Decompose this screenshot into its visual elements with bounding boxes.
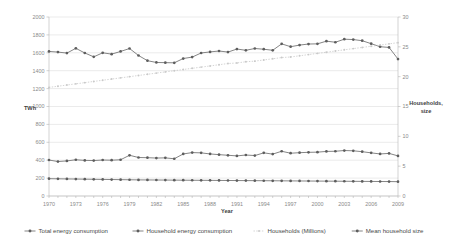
series-data-point [173, 179, 176, 182]
series-data-point [209, 153, 212, 156]
series-data-point [245, 154, 248, 157]
series-data-point [164, 71, 166, 73]
x-axis-tick-label: 1991 [231, 201, 243, 207]
series-data-point [236, 179, 239, 182]
series-data-point [75, 178, 78, 181]
series-data-point [227, 63, 229, 65]
series-data-point [280, 179, 283, 182]
series-data-point [325, 51, 327, 53]
series-data-point [379, 180, 382, 183]
series-data-point [397, 42, 399, 44]
series-data-point [325, 40, 328, 43]
series-data-point [75, 158, 78, 161]
series-data-point [317, 52, 319, 54]
y-axis-right-tick-label: 10 [403, 133, 409, 139]
y-axis-left-tick-label: 600 [36, 139, 45, 145]
series-data-point [120, 77, 122, 79]
series-data-point [84, 82, 86, 84]
series-data-point [110, 53, 113, 56]
series-data-point [298, 44, 301, 47]
series-data-point [164, 157, 167, 160]
series-data-point [129, 76, 131, 78]
x-axis-tick-label: 1976 [97, 201, 109, 207]
series-data-point [262, 179, 265, 182]
series-data-point [316, 43, 319, 46]
series-data-point [334, 41, 337, 44]
series-data-point [361, 46, 363, 48]
series-data-point [263, 59, 265, 61]
series-data-point [289, 180, 292, 183]
series-data-point [155, 72, 157, 74]
y-axis-right-tick-label: 20 [403, 74, 409, 80]
series-data-point [370, 152, 373, 155]
series-data-point [218, 179, 221, 182]
legend-item-label[interactable]: Household energy consumption [147, 227, 233, 234]
series-data-point [289, 45, 292, 48]
series-data-point [334, 50, 336, 52]
series-data-point [352, 149, 355, 152]
series-data-point [200, 66, 202, 68]
series-data-point [334, 150, 337, 153]
series-data-point [236, 62, 238, 64]
legend-swatch-marker [356, 230, 359, 233]
series-data-point [370, 180, 373, 183]
series-data-point [209, 65, 211, 67]
x-axis-tick-label: 1973 [70, 201, 82, 207]
y-axis-right-title-line: Households, [409, 100, 443, 106]
series-data-point [128, 47, 131, 50]
series-data-point [57, 85, 59, 87]
series-data-point [111, 78, 113, 80]
y-axis-left-tick-label: 1400 [33, 68, 45, 74]
y-axis-right-tick-label: 25 [403, 44, 409, 50]
series-data-point [57, 160, 60, 163]
series-data-point [307, 43, 310, 46]
series-group [48, 38, 400, 183]
series-data-point [200, 52, 203, 55]
series-data-point [227, 179, 230, 182]
series-data-point [325, 150, 328, 153]
series-data-point [343, 38, 346, 41]
series-data-point [93, 80, 95, 82]
plot-gridlines [49, 17, 398, 196]
series-data-point [191, 179, 194, 182]
legend-item-label[interactable]: Households (Millions) [268, 227, 326, 234]
series-data-point [110, 159, 113, 162]
series-data-point [57, 177, 60, 180]
y-axis-left-tick-label: 1200 [33, 86, 45, 92]
series-data-point [289, 152, 292, 155]
series-data-point [83, 159, 86, 162]
y-axis-left-tick-label: 800 [36, 121, 45, 127]
series-data-point [119, 158, 122, 161]
series-data-point [200, 152, 203, 155]
legend-item-label[interactable]: Total energy consumption [39, 227, 108, 234]
y-axis-left-tick-label: 0 [42, 193, 45, 199]
x-axis-tick-label: 2006 [365, 201, 377, 207]
series-data-point [271, 49, 274, 52]
series-data-point [155, 157, 158, 160]
x-axis-title: Year [221, 208, 234, 214]
energy-households-chart: 0200400600800100012001400160018002000 05… [0, 0, 455, 243]
series-data-point [191, 56, 194, 59]
series-data-point [352, 48, 354, 50]
series-data-point [245, 61, 247, 63]
y-axis-right-tick-label: 0 [403, 193, 406, 199]
series-data-point [57, 51, 60, 54]
series-data-point [271, 179, 274, 182]
series-data-point [66, 160, 69, 163]
series-data-point [361, 150, 364, 153]
y-axis-left-tick-label: 200 [36, 175, 45, 181]
series-data-point [173, 61, 176, 64]
y-axis-right-ticks: 051015202530 [398, 14, 409, 199]
legend-item-label[interactable]: Mean household size [366, 227, 424, 234]
series-data-point [308, 54, 310, 56]
series-line [49, 39, 398, 63]
series-data-point [379, 153, 382, 156]
series-data-point [128, 154, 131, 157]
legend-swatch-marker [137, 230, 140, 233]
series-data-point [218, 50, 221, 53]
series-data-point [182, 153, 185, 156]
series-data-point [307, 151, 310, 154]
series-data-point [146, 156, 149, 159]
series-data-point [253, 179, 256, 182]
x-axis-tick-label: 2000 [311, 201, 323, 207]
